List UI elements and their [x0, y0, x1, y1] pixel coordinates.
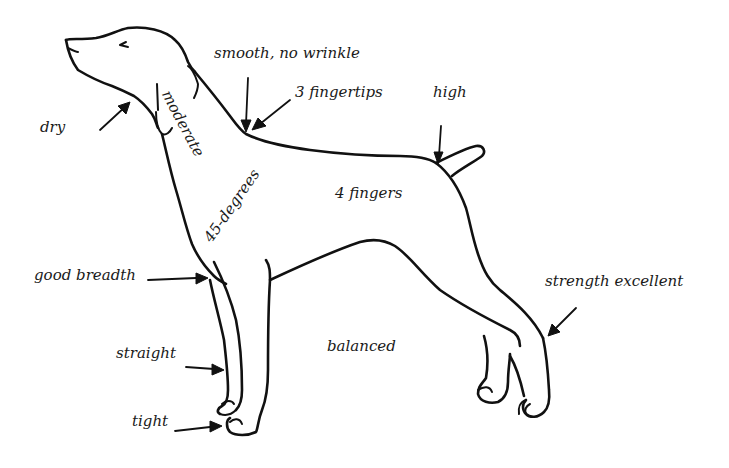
label-tight: tight [132, 414, 168, 429]
arrowhead-breadth [196, 273, 208, 284]
far-front-foot-toes [230, 419, 242, 424]
label-strength-excellent: strength excellent [545, 274, 683, 289]
arrowhead-tight [210, 421, 222, 432]
arrow-breadth [148, 278, 196, 280]
jaw-outline [66, 40, 158, 128]
arrow-fingertips [260, 100, 290, 124]
label-good-breadth: good breadth [34, 268, 136, 283]
eye-mark [120, 42, 128, 47]
far-front-leg-outline [227, 260, 270, 435]
arrow-smooth [246, 78, 248, 124]
label-4-fingers: 4 fingers [335, 186, 402, 201]
label-high: high [433, 85, 467, 100]
arrowhead-straight [212, 364, 224, 375]
label-3-fingertips: 3 fingertips [295, 85, 383, 100]
head-outline [66, 28, 195, 73]
arrow-strength [556, 308, 576, 328]
arrow-tight [175, 427, 210, 431]
rear-thigh-outline [436, 163, 543, 338]
underline-outline [270, 240, 520, 346]
label-straight: straight [116, 346, 176, 361]
ear-outline [188, 66, 198, 98]
label-balanced: balanced [327, 339, 396, 354]
far-rear-foot-toes [478, 387, 492, 392]
rear-leg-front-outline [510, 356, 524, 396]
dog-conformation-diagram: dry moderate smooth, no wrinkle 3 finger… [0, 0, 729, 468]
dog-outline-drawing [0, 0, 729, 468]
label-smooth-no-wrinkle: smooth, no wrinkle [214, 46, 360, 61]
label-dry: dry [40, 120, 65, 135]
front-leg-back-edge [210, 280, 228, 414]
tail-outline [436, 146, 484, 176]
far-rear-leg-outline [478, 336, 510, 403]
front-foot-toes [220, 401, 236, 415]
arrow-straight [186, 367, 214, 369]
